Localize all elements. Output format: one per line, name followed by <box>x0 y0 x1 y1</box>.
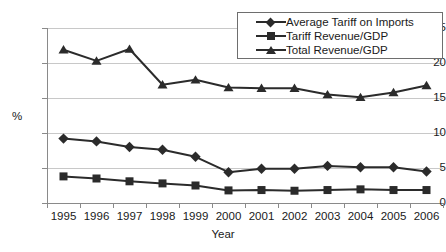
triangle-marker-icon <box>256 44 286 56</box>
square-data-point <box>357 185 365 193</box>
diamond-data-point <box>190 152 200 162</box>
square-marker-icon <box>256 30 286 42</box>
legend-item-tariff-revenue-gdp: Tariff Revenue/GDP <box>238 29 442 43</box>
chart-legend: Average Tariff on Imports Tariff Revenue… <box>237 12 443 59</box>
legend-label: Tariff Revenue/GDP <box>286 30 388 43</box>
square-data-point <box>291 187 299 195</box>
square-data-point <box>324 186 332 194</box>
triangle-data-point <box>59 45 69 53</box>
diamond-marker-icon <box>256 16 286 28</box>
square-data-point <box>159 179 167 187</box>
series-line <box>64 139 427 173</box>
diamond-data-point <box>355 162 365 172</box>
diamond-data-point <box>289 164 299 174</box>
diamond-data-point <box>223 167 233 177</box>
triangle-data-point <box>422 81 432 89</box>
diamond-data-point <box>256 164 266 174</box>
square-data-point <box>93 175 101 183</box>
legend-label: Average Tariff on Imports <box>286 16 414 29</box>
square-data-point <box>192 182 200 190</box>
diamond-data-point <box>421 166 431 176</box>
series-line <box>64 176 427 190</box>
triangle-data-point <box>125 44 135 52</box>
legend-item-total-revenue-gdp: Total Revenue/GDP <box>238 43 442 57</box>
diamond-data-point <box>157 145 167 155</box>
diamond-data-point <box>388 162 398 172</box>
legend-label: Total Revenue/GDP <box>286 44 388 57</box>
square-data-point <box>60 172 68 180</box>
diamond-data-point <box>322 161 332 171</box>
square-data-point <box>390 186 398 194</box>
diamond-data-point <box>124 142 134 152</box>
diamond-data-point <box>91 136 101 146</box>
square-data-point <box>258 186 266 194</box>
square-data-point <box>126 177 134 185</box>
diamond-data-point <box>58 133 68 143</box>
legend-item-average-tariff-on-imports: Average Tariff on Imports <box>238 15 442 29</box>
square-data-point <box>423 186 431 194</box>
square-data-point <box>225 186 233 194</box>
chart-container: 0510152025 19951996199719981999200020012… <box>0 0 446 252</box>
